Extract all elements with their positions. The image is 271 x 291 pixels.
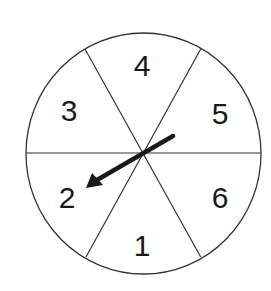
section-label-2: 2 <box>59 181 76 214</box>
spinner-arrow-icon[interactable] <box>86 136 173 188</box>
section-label-4: 4 <box>134 49 151 82</box>
spinner-diagram: 4 3 5 2 6 1 <box>0 0 271 291</box>
section-label-5: 5 <box>212 97 229 130</box>
section-label-3: 3 <box>61 94 78 127</box>
section-label-1: 1 <box>134 229 151 262</box>
section-label-6: 6 <box>212 181 229 214</box>
